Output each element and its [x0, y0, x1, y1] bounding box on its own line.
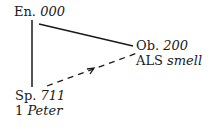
edge-en-ob	[39, 24, 133, 46]
arrowhead-icon	[87, 68, 94, 74]
node-ob: Ob. 200 ALS smell	[136, 38, 202, 68]
node-ob-label: Ob.	[136, 38, 159, 53]
node-en-value: 000	[40, 4, 65, 19]
node-ob-value: 200	[163, 38, 188, 53]
node-en-label: En.	[14, 4, 36, 19]
node-sp-sub-value: Peter	[27, 103, 62, 118]
node-ob-sub-label: ALS	[136, 53, 163, 68]
node-ob-sub-value: smell	[167, 53, 202, 68]
node-sp-value: 711	[41, 88, 66, 103]
node-en: En. 000	[14, 4, 65, 19]
node-sp-sub-label: 1	[15, 103, 23, 118]
node-sp: Sp. 711 1 Peter	[15, 88, 65, 118]
node-sp-label: Sp.	[15, 88, 36, 103]
